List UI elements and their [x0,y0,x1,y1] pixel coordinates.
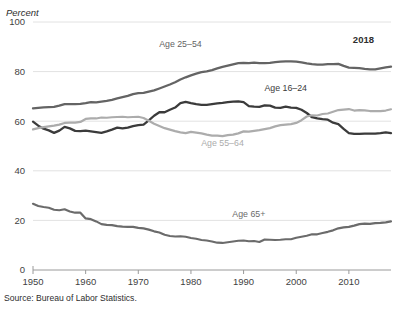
series-label-2: Age 55–64 [201,138,244,148]
y-tick-label-100: 100 [9,16,25,27]
x-tick-label-1990: 1990 [233,276,254,287]
x-tick-label-2010: 2010 [338,276,359,287]
y-tick-label-20: 20 [14,215,25,226]
chart-canvas: 020406080100 195019601970198019902000201… [0,0,399,309]
source-note: Source: Bureau of Labor Statistics. [4,293,137,303]
y-tick-label-80: 80 [14,66,25,77]
series-label-1: Age 16–24 [264,83,307,93]
end-year-annotation: 2018 [353,34,374,45]
y-tick-label-60: 60 [14,116,25,127]
x-tick-label-2000: 2000 [286,276,307,287]
labor-force-participation-chart: 020406080100 195019601970198019902000201… [0,0,399,309]
x-tick-label-1970: 1970 [128,276,149,287]
x-tick-label-1980: 1980 [180,276,201,287]
series-label-3: Age 65+ [232,209,265,219]
series-label-0: Age 25–54 [159,39,202,49]
x-tick-label-1950: 1950 [22,276,43,287]
y-tick-label-0: 0 [20,264,25,275]
x-tick-label-1960: 1960 [75,276,96,287]
y-tick-label-40: 40 [14,165,25,176]
y-axis-unit-label: Percent [6,7,39,18]
